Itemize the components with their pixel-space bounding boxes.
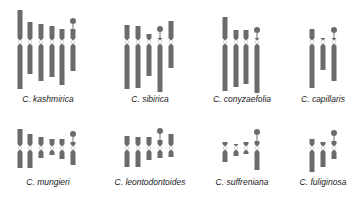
species-label-leontodontoides: C. leontodontoides	[115, 177, 186, 187]
chromosome	[234, 144, 239, 156]
chromosome	[310, 139, 315, 172]
chromosome	[169, 21, 174, 68]
chromosome	[157, 128, 163, 158]
species-label-sibirica: C. sibirica	[131, 94, 168, 104]
satellite	[157, 128, 163, 134]
chromosome	[136, 26, 141, 88]
chromosome	[157, 26, 163, 92]
species-label-kashmirica: C. kashmirica	[22, 94, 73, 104]
species-label-fuliginosa: C. fuliginosa	[300, 177, 347, 187]
chromosome	[50, 26, 55, 77]
chromosome	[70, 18, 76, 71]
chromosome	[125, 136, 130, 167]
chromosome	[321, 38, 326, 70]
chromosome	[169, 134, 174, 157]
satellite	[254, 27, 260, 33]
chromosome	[125, 25, 130, 89]
chromosome-set	[125, 128, 174, 167]
chromosome	[331, 27, 337, 81]
species-label-suffreniana: C. suffreniana	[216, 177, 269, 187]
satellite	[70, 18, 76, 24]
chromosome	[136, 137, 141, 167]
chromosome	[254, 27, 260, 93]
satellite	[331, 130, 337, 136]
chromosome	[223, 17, 228, 91]
chromosome-set	[223, 17, 261, 93]
chromosome	[310, 29, 315, 88]
chromosome	[18, 129, 23, 168]
chromosome	[28, 134, 33, 168]
chromosome	[50, 139, 55, 155]
species-label-capillaris: C. capillaris	[301, 94, 345, 104]
satellite	[70, 131, 76, 137]
chromosome	[39, 137, 44, 158]
chromosome	[254, 129, 260, 170]
chromosome	[223, 142, 228, 162]
chromosome	[234, 30, 239, 87]
satellite	[254, 129, 260, 135]
chromosome	[28, 22, 33, 74]
chromosome-set	[18, 129, 77, 168]
chromosome	[39, 24, 44, 81]
chromosome-set	[18, 10, 77, 89]
chromosome	[244, 30, 249, 84]
species-label-conyzaefolia: C. conyzaefolia	[213, 94, 271, 104]
chromosome	[321, 142, 326, 167]
chromosome	[70, 131, 76, 165]
satellite	[331, 27, 337, 33]
chromosome	[147, 137, 152, 160]
chromosome-set	[125, 21, 174, 92]
chromosome	[147, 34, 152, 76]
chromosome	[331, 130, 337, 159]
satellite	[157, 26, 163, 32]
chromosome	[60, 139, 65, 159]
chromosome	[60, 29, 65, 85]
chromosome-set	[310, 130, 338, 172]
chromosome	[244, 142, 249, 154]
chromosome-set	[310, 27, 338, 88]
chromosome-set	[223, 129, 261, 170]
species-label-mungieri: C. mungieri	[26, 177, 69, 187]
chromosome	[18, 10, 23, 89]
